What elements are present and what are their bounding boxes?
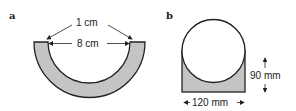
figure-b: b 120 mm 90 mm xyxy=(166,10,281,108)
figure-a: a 1 cm 8 cm xyxy=(9,10,145,98)
figure-b-label: b xyxy=(166,10,173,21)
diagram-canvas: a 1 cm 8 cm b 120 mm 90 mm xyxy=(0,0,296,111)
inner-width-label: 8 cm xyxy=(77,38,99,49)
width-label: 120 mm xyxy=(192,97,228,108)
circle xyxy=(182,20,245,83)
height-label: 90 mm xyxy=(250,70,281,81)
semicircular-ring xyxy=(34,42,145,98)
thickness-label: 1 cm xyxy=(76,17,98,28)
figure-a-label: a xyxy=(9,10,16,21)
thickness-arrow-left xyxy=(47,25,72,39)
thickness-arrow-right xyxy=(108,25,132,39)
